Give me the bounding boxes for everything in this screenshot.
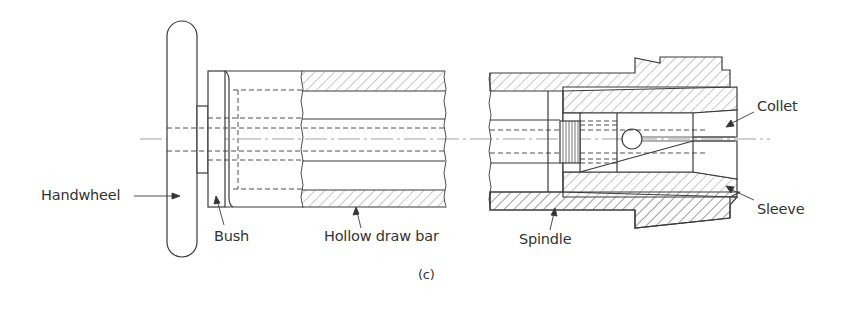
bush-label: Bush	[214, 228, 249, 244]
sleeve-label: Sleeve	[757, 201, 804, 217]
handwheel-hub	[197, 106, 208, 173]
handwheel-label: Handwheel	[41, 187, 120, 203]
draw-bar-arrow-icon	[353, 207, 359, 215]
hollow-draw-bar-label: Hollow draw bar	[324, 228, 439, 244]
bush-shape	[208, 71, 225, 207]
figure-caption: (c)	[418, 267, 435, 282]
collet-label: Collet	[757, 98, 797, 114]
handwheel-shape	[167, 21, 197, 257]
spindle-label: Spindle	[519, 231, 571, 247]
